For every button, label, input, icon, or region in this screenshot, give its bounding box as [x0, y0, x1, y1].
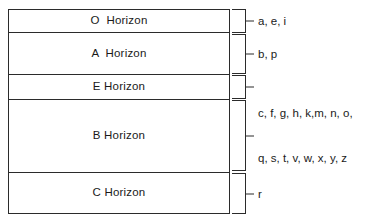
horizon-label-a: A Horizon: [91, 48, 146, 60]
bracket-group-c: r: [232, 173, 374, 214]
bracket-tick-c: [246, 193, 254, 194]
descriptor-text-a: b, p: [258, 47, 277, 62]
horizon-label-c: C Horizon: [93, 187, 146, 199]
bracket-icon-e: [232, 75, 246, 99]
descriptor-text-o: a, e, i: [258, 14, 286, 29]
horizon-box-o: O Horizon: [8, 9, 230, 33]
bracket-icon-a: [232, 34, 246, 74]
bracket-group-b: c, f, g, h, k,m, n, o, q, s, t, v, w, x,…: [232, 100, 374, 171]
horizon-label-o: O Horizon: [91, 15, 148, 27]
horizon-box-a: A Horizon: [8, 33, 230, 75]
soil-horizon-diagram: O Horizon A Horizon E Horizon B Horizon …: [0, 0, 374, 221]
horizon-label-b: B Horizon: [93, 130, 145, 142]
horizon-box-c: C Horizon: [8, 173, 230, 214]
descriptor-text-c: r: [258, 186, 262, 201]
bracket-icon-b: [232, 100, 246, 171]
descriptor-line-b-1: c, f, g, h, k,m, n, o,: [258, 106, 353, 121]
bracket-icon-c: [232, 173, 246, 214]
bracket-icon-o: [232, 9, 246, 33]
bracket-tick-e: [246, 87, 254, 88]
bracket-tick-o: [246, 21, 254, 22]
descriptor-line-b-2: q, s, t, v, w, x, y, z: [258, 151, 353, 166]
horizon-box-e: E Horizon: [8, 75, 230, 100]
bracket-tick-a: [246, 54, 254, 55]
bracket-tick-b: [246, 135, 254, 136]
horizon-label-e: E Horizon: [93, 81, 145, 93]
horizon-box-b: B Horizon: [8, 100, 230, 173]
bracket-group-a: b, p: [232, 34, 374, 74]
horizon-stack: O Horizon A Horizon E Horizon B Horizon …: [8, 9, 230, 214]
bracket-group-o: a, e, i: [232, 9, 374, 33]
